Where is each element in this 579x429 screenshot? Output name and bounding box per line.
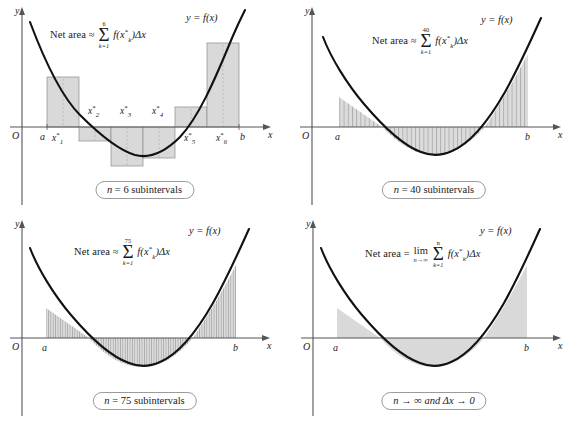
caption-rest-n75: = 75 subintervals (112, 395, 184, 406)
formula-lead-n75: Net area (74, 246, 110, 257)
endpoint-b-label: b (240, 131, 245, 142)
caption-limit: n → ∞ and Δx → 0 (381, 392, 486, 410)
sigma-glyph-icon: Σ (122, 244, 133, 259)
endpoint-b-label: b (525, 131, 530, 142)
panel-n40: y x O a b y = f(x) Net area ≈ 40 Σ k=1 f… (289, 0, 579, 215)
panel-limit: y x O a b y = f(x) Net area = lim n→∞ n … (289, 215, 579, 429)
summand-tail-n75: )Δx (155, 246, 170, 257)
sigma-glyph-icon: Σ (420, 33, 431, 48)
endpoint-a-label: a (40, 131, 45, 142)
negative-region (382, 127, 485, 155)
summand-head-limit: f(x (448, 248, 459, 259)
negative-region (89, 338, 193, 367)
summand-tail-n40: )Δx (453, 35, 468, 46)
endpoint-b-label: b (524, 342, 529, 353)
curve-label: y = f(x) (480, 225, 512, 236)
caption-rest-n40: = 40 subintervals (402, 184, 474, 195)
formula-relation-limit: = (404, 248, 410, 259)
caption-text-limit: n → ∞ and Δx → 0 (393, 395, 474, 406)
origin-label: O (302, 130, 309, 141)
endpoint-b-label: b (233, 342, 238, 353)
caption-n6: n = 6 subintervals (95, 181, 194, 199)
sample-point-label-1: x*1 (52, 131, 63, 145)
sigma-lower-n6: k=1 (98, 42, 109, 49)
left-positive-region (339, 97, 382, 127)
x-axis-label: x (268, 129, 272, 140)
left-positive-region (337, 308, 380, 338)
sample-point-label-2: x*2 (88, 104, 99, 118)
sample-point-label-3: x*3 (120, 104, 131, 118)
sigma-glyph-icon: Σ (433, 246, 444, 261)
formula-n40: Net area ≈ 40 Σ k=1 f(x*k)Δx (372, 28, 468, 56)
summand-tail-limit: )Δx (466, 248, 481, 259)
y-axis-label: y (15, 218, 19, 229)
caption-prefix-n6: n (107, 184, 112, 195)
sigma-n75: 75 Σ k=1 (122, 238, 133, 266)
negative-region (380, 338, 484, 367)
sigma-limit: n Σ k=1 (433, 240, 444, 268)
formula-relation-n40: ≈ (411, 35, 417, 46)
formula-n6: Net area ≈ 6 Σ k=1 f(x*k)Δx (50, 22, 146, 50)
riemann-rectangles (47, 43, 239, 166)
curve-label: y = f(x) (186, 12, 218, 23)
endpoint-a-label: a (333, 342, 338, 353)
x-axis-label: x (558, 129, 562, 140)
summand-tail-n6: )Δx (131, 29, 146, 40)
y-axis-label: y (306, 218, 310, 229)
origin-label: O (12, 130, 19, 141)
sample-point-label-6: x*6 (216, 131, 227, 145)
limit-op-label: lim (414, 245, 428, 256)
caption-prefix-n75: n (104, 395, 109, 406)
caption-n40: n = 40 subintervals (382, 181, 486, 199)
summand-head-n75: f(x (137, 246, 148, 257)
caption-prefix-n40: n (394, 184, 399, 195)
formula-limit: Net area = lim n→∞ n Σ k=1 f(x*k)Δx (365, 241, 480, 269)
formula-lead-n6: Net area (50, 29, 86, 40)
x-axis-label: x (558, 340, 562, 351)
formula-lead-limit: Net area (365, 248, 401, 259)
curve-label: y = f(x) (189, 225, 221, 236)
sample-point-label-4: x*4 (152, 104, 163, 118)
summand-head-n40: f(x (435, 35, 446, 46)
endpoint-a-label: a (42, 342, 47, 353)
x-axis-label: x (267, 340, 271, 351)
sigma-n6: 6 Σ k=1 (98, 21, 109, 49)
origin-label: O (12, 341, 19, 352)
sigma-lower-n75: k=1 (122, 259, 133, 266)
endpoint-a-label: a (335, 131, 340, 142)
limit-sub-label: n→∞ (414, 256, 428, 263)
origin-label: O (303, 341, 310, 352)
y-axis-label: y (15, 5, 19, 16)
caption-n75: n = 75 subintervals (92, 392, 196, 410)
sigma-glyph-icon: Σ (98, 27, 109, 42)
limit-operator: lim n→∞ (414, 245, 428, 263)
formula-relation-n75: ≈ (113, 246, 119, 257)
sigma-lower-n40: k=1 (420, 48, 431, 55)
panel-n6: y x O a b x*1 x*2 x*3 x*4 x*5 x*6 y = f(… (0, 0, 289, 215)
formula-lead-n40: Net area (372, 35, 408, 46)
caption-rest-n6: = 6 subintervals (115, 184, 182, 195)
summand-head-n6: f(x (113, 29, 124, 40)
sigma-n40: 40 Σ k=1 (420, 27, 431, 55)
formula-n75: Net area ≈ 75 Σ k=1 f(x*k)Δx (74, 239, 170, 267)
formula-relation-n6: ≈ (89, 29, 95, 40)
sigma-lower-limit: k=1 (433, 261, 444, 268)
sample-point-label-5: x*5 (184, 131, 195, 145)
panel-n75: y x O a b y = f(x) Net area ≈ 75 Σ k=1 f… (0, 215, 289, 429)
left-positive-region (46, 308, 89, 338)
figure-grid: y x O a b x*1 x*2 x*3 x*4 x*5 x*6 y = f(… (0, 0, 579, 429)
y-axis-label: y (305, 5, 309, 16)
curve-label: y = f(x) (481, 14, 513, 25)
